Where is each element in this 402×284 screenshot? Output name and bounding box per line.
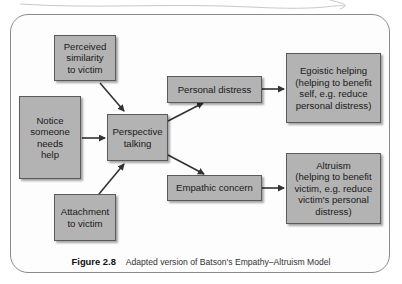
node-label: Attachment to victim xyxy=(61,206,110,229)
node-label: Perceived similarity to victim xyxy=(64,41,107,76)
node-label: Perspective talking xyxy=(112,126,162,149)
node-perspective-talking: Perspective talking xyxy=(107,114,168,161)
node-empathic-concern: Empathic concern xyxy=(167,175,262,201)
figure-label: Figure 2.8 xyxy=(72,256,116,267)
node-label: Egoistic helping (helping to benefit sel… xyxy=(295,65,371,111)
node-label: Empathic concern xyxy=(176,182,253,194)
node-attachment-to-victim: Attachment to victim xyxy=(54,194,116,241)
figure-title: Adapted version of Batson's Empathy–Altr… xyxy=(126,257,331,267)
node-notice-someone-needs-help: Notice someone needs help xyxy=(19,96,81,179)
node-personal-distress: Personal distress xyxy=(167,76,262,103)
node-altruism: Altruism (helping to benefit victim, e.g… xyxy=(286,153,381,224)
node-label: Personal distress xyxy=(178,84,252,96)
node-egoistic-helping: Egoistic helping (helping to benefit sel… xyxy=(286,53,381,123)
node-label: Altruism (helping to benefit victim, e.g… xyxy=(295,160,373,218)
node-label: Notice someone needs help xyxy=(30,115,69,161)
node-perceived-similarity: Perceived similarity to victim xyxy=(54,35,116,81)
figure-caption: Figure 2.8 Adapted version of Batson's E… xyxy=(0,256,402,267)
